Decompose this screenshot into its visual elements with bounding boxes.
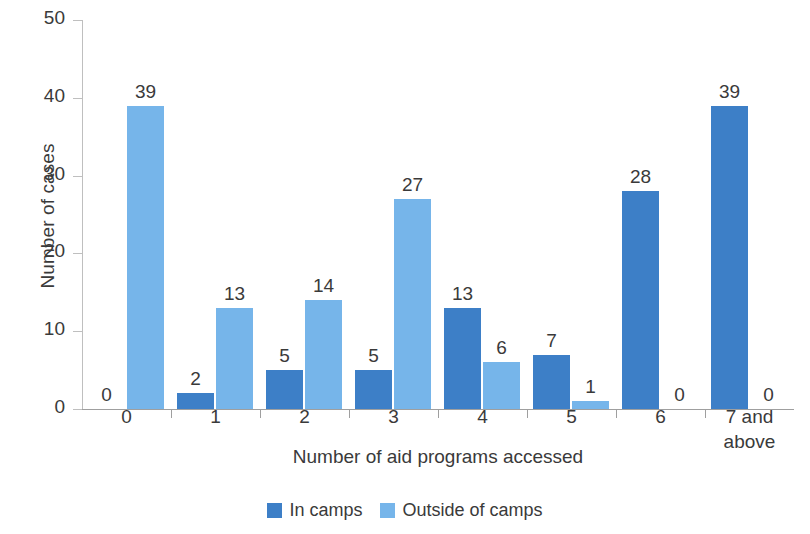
x-axis-tick-label: 4 (438, 404, 528, 429)
bar-fill (127, 106, 164, 409)
bar-value-label: 0 (763, 385, 774, 404)
legend-color-swatch (380, 503, 395, 518)
bar-value-label: 0 (674, 385, 685, 404)
bar-value-label: 5 (279, 346, 290, 365)
bar-outside: 39 (127, 106, 164, 409)
bar-value-label: 13 (224, 284, 245, 303)
bar-group: 213 (174, 20, 256, 409)
legend-item[interactable]: In camps (267, 500, 362, 521)
x-axis-tick-label: 6 (616, 404, 706, 429)
bar-outside: 13 (216, 308, 253, 409)
legend-label: Outside of camps (402, 500, 542, 521)
bar-value-label: 39 (719, 82, 740, 101)
bar-value-label: 28 (630, 167, 651, 186)
y-axis-line (82, 20, 83, 409)
y-axis-tick-label: 10 (44, 318, 65, 340)
y-axis-tick: 20 (73, 253, 82, 254)
bar-fill (305, 300, 342, 409)
bar-value-label: 0 (101, 385, 112, 404)
bar-group: 514 (263, 20, 345, 409)
x-axis-tick-label: 3 (349, 404, 439, 429)
bar-value-label: 2 (190, 369, 201, 388)
bar-value-label: 13 (452, 284, 473, 303)
y-axis-tick-label: 0 (54, 396, 65, 418)
x-axis-tick-label: 0 (82, 404, 172, 429)
bar-outside: 27 (394, 199, 431, 409)
legend-label: In camps (289, 500, 362, 521)
y-axis-tick-label: 40 (44, 85, 65, 107)
chart-legend: In campsOutside of camps (0, 500, 810, 521)
bar-value-label: 7 (546, 331, 557, 350)
bar-group: 71 (530, 20, 612, 409)
bar-in-camps: 28 (622, 191, 659, 409)
y-axis-tick: 30 (73, 176, 82, 177)
bar-group: 136 (441, 20, 523, 409)
bar-value-label: 27 (402, 175, 423, 194)
bar-value-label: 6 (496, 338, 507, 357)
y-axis-title: Number of cases (37, 86, 59, 346)
y-axis-tick-label: 20 (44, 240, 65, 262)
bar-value-label: 14 (313, 276, 334, 295)
bar-fill (394, 199, 431, 409)
legend-color-swatch (267, 503, 282, 518)
plot-area: 01020304050 03921351452713671280390 (82, 20, 794, 409)
y-axis-tick-label: 30 (44, 163, 65, 185)
bar-chart: Number of cases 01020304050 039213514527… (0, 0, 810, 534)
x-axis-title: Number of aid programs accessed (82, 446, 794, 468)
y-axis-tick: 10 (73, 331, 82, 332)
legend-item[interactable]: Outside of camps (380, 500, 542, 521)
bar-fill (483, 362, 520, 409)
y-axis-tick: 40 (73, 98, 82, 99)
bar-fill (711, 106, 748, 409)
x-axis-tick-label: 2 (260, 404, 350, 429)
bar-group: 039 (85, 20, 167, 409)
bar-outside: 14 (305, 300, 342, 409)
bar-group: 527 (352, 20, 434, 409)
x-axis-tick-label: 5 (527, 404, 617, 429)
bar-fill (622, 191, 659, 409)
y-axis-tick: 50 (73, 20, 82, 21)
bar-in-camps: 7 (533, 355, 570, 409)
bar-fill (216, 308, 253, 409)
bar-group: 390 (708, 20, 790, 409)
bar-group: 280 (619, 20, 701, 409)
bar-value-label: 5 (368, 346, 379, 365)
bar-in-camps: 13 (444, 308, 481, 409)
x-axis-tick-label: 1 (171, 404, 261, 429)
bar-value-label: 1 (585, 377, 596, 396)
y-axis-tick-label: 50 (44, 7, 65, 29)
bar-value-label: 39 (135, 82, 156, 101)
bar-outside: 6 (483, 362, 520, 409)
bar-fill (444, 308, 481, 409)
bar-in-camps: 39 (711, 106, 748, 409)
bar-fill (533, 355, 570, 409)
